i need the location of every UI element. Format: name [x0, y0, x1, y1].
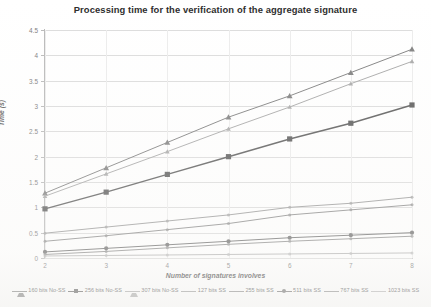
series-data-point — [411, 196, 414, 199]
legend-marker-circle-icon — [282, 289, 286, 293]
legend-item[interactable]: 511 bits SS — [275, 288, 322, 294]
legend-line — [324, 291, 339, 292]
series-4 — [44, 196, 414, 235]
series-layer — [0, 0, 431, 307]
legend-label: 127 bits SS — [198, 288, 226, 294]
legend-swatch — [181, 288, 196, 294]
legend-label: 160 bits No-SS — [28, 288, 65, 294]
legend-marker-triangle-icon — [17, 289, 25, 297]
series-data-point — [288, 252, 291, 255]
legend-label: 1023 bits SS — [388, 288, 419, 294]
chart-container: Processing time for the verification of … — [0, 0, 431, 307]
series-data-point — [166, 246, 169, 249]
legend-item[interactable]: 307 bits No-SS — [123, 288, 180, 294]
series-7 — [44, 235, 414, 256]
series-data-point — [42, 206, 47, 211]
legend-swatch — [229, 288, 244, 294]
series-data-point — [409, 102, 414, 107]
legend-label: 255 bits SS — [245, 288, 273, 294]
series-data-point — [288, 206, 291, 209]
series-data-point — [227, 222, 230, 225]
legend-label: 256 bits No-SS — [85, 288, 122, 294]
series-data-point — [349, 233, 353, 237]
series-data-point — [44, 254, 47, 257]
legend-item[interactable]: 127 bits SS — [180, 288, 228, 294]
series-data-point — [226, 154, 231, 159]
legend-swatch — [371, 288, 386, 294]
series-6 — [43, 231, 414, 254]
series-data-point — [411, 235, 414, 238]
series-data-point — [349, 252, 352, 255]
series-data-point — [105, 254, 108, 257]
series-data-point — [349, 208, 352, 211]
series-data-point — [105, 226, 108, 229]
legend-item[interactable]: 256 bits No-SS — [67, 288, 124, 294]
series-data-point — [349, 237, 352, 240]
series-data-point — [166, 220, 169, 223]
series-data-point — [410, 59, 415, 63]
series-data-point — [349, 202, 352, 205]
series-data-point — [227, 213, 230, 216]
series-data-point — [227, 253, 230, 256]
series-data-point — [166, 228, 169, 231]
series-data-point — [165, 172, 170, 177]
series-data-point — [44, 232, 47, 235]
series-data-point — [164, 140, 170, 145]
legend-label: 767 bits SS — [340, 288, 368, 294]
series-data-point — [165, 243, 169, 247]
legend-line — [371, 291, 386, 292]
series-data-point — [348, 121, 353, 126]
legend-label: 511 bits SS — [293, 288, 321, 294]
series-data-point — [226, 239, 230, 243]
series-data-point — [44, 240, 47, 243]
legend-line — [181, 291, 196, 292]
series-data-point — [105, 234, 108, 237]
series-3 — [43, 59, 415, 198]
legend-swatch — [68, 288, 83, 294]
series-data-point — [166, 253, 169, 256]
series-data-point — [288, 236, 292, 240]
legend-label: 307 bits No-SS — [141, 288, 178, 294]
series-data-point — [103, 165, 109, 170]
legend-swatch — [125, 288, 140, 294]
legend-swatch — [277, 288, 292, 294]
legend-item[interactable]: 1023 bits SS — [370, 288, 421, 294]
series-data-point — [411, 251, 414, 254]
series-data-point — [411, 203, 414, 206]
series-data-point — [104, 190, 109, 195]
legend-marker-triangle-icon — [130, 289, 138, 297]
legend-item[interactable]: 767 bits SS — [322, 288, 370, 294]
legend-item[interactable]: 160 bits No-SS — [10, 288, 67, 294]
series-data-point — [104, 246, 108, 250]
series-data-point — [227, 243, 230, 246]
series-5 — [44, 203, 414, 242]
series-8 — [44, 251, 414, 257]
legend-line — [229, 291, 244, 292]
legend-swatch — [324, 288, 339, 294]
series-data-point — [288, 213, 291, 216]
legend-marker-square-icon — [74, 289, 78, 293]
series-data-point — [105, 250, 108, 253]
series-data-point — [287, 136, 292, 141]
legend-swatch — [12, 288, 27, 294]
legend-item[interactable]: 255 bits SS — [227, 288, 275, 294]
series-data-point — [288, 240, 291, 243]
series-data-point — [410, 231, 414, 235]
chart-legend: 160 bits No-SS256 bits No-SS307 bits No-… — [0, 288, 431, 294]
series-data-point — [409, 46, 415, 51]
